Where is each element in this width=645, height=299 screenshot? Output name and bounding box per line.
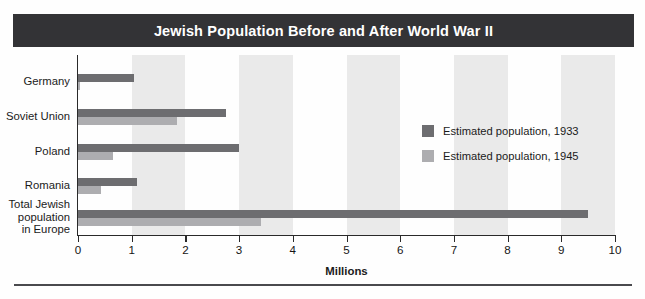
bar-1945 [78,117,177,125]
axis-tick [615,236,616,242]
axis-tick [347,236,348,242]
category-axis-labels: GermanySoviet UnionPolandRomaniaTotal Je… [0,55,74,235]
bar-1945 [78,186,101,194]
axis-tick [185,236,186,242]
category-label: Poland [35,145,70,158]
bar-1945 [78,152,113,160]
axis-tick [78,236,79,242]
axis-tick-label: 5 [343,243,349,256]
axis-tick-label: 1 [128,243,134,256]
category-label-line: Romania [25,179,70,192]
bar-1933 [78,74,134,82]
chart-title: Jewish Population Before and After World… [154,23,493,39]
category-label-line: Germany [24,75,70,88]
category-label-line: Total Jewish [8,198,70,211]
axis-tick [508,236,509,242]
legend-swatch-1945 [422,150,434,162]
axis-tick [454,236,455,242]
axis-tick [293,236,294,242]
category-label-line: in Europe [8,223,70,236]
background-band [239,55,293,235]
plot-area: GermanySoviet UnionPolandRomaniaTotal Je… [0,55,645,299]
category-label-line: Poland [35,145,70,158]
axis-tick [132,236,133,242]
chart-title-band: Jewish Population Before and After World… [13,14,634,47]
legend-label-1933: Estimated population, 1933 [443,125,579,137]
legend-item: Estimated population, 1933 [422,125,632,137]
category-label: Romania [25,179,70,192]
chart-legend: Estimated population, 1933 Estimated pop… [422,125,632,175]
legend-item: Estimated population, 1945 [422,150,632,162]
axis-tick-label: 0 [75,243,81,256]
category-label-line: Soviet Union [6,110,70,123]
axis-title: Millions [78,265,615,277]
chart-figure: Jewish Population Before and After World… [0,0,645,299]
category-label: Total Jewishpopulationin Europe [8,198,70,236]
bar-1945 [78,218,261,226]
axis-tick-label: 2 [182,243,188,256]
axis-tick-label: 6 [397,243,403,256]
category-label: Soviet Union [6,110,70,123]
axis-tick [239,236,240,242]
bar-1945 [78,82,80,90]
background-band [347,55,401,235]
axis-tick-label: 3 [236,243,242,256]
bar-1933 [78,144,239,152]
category-label-line: population [8,211,70,224]
bar-1933 [78,178,137,186]
axis-tick-label: 8 [504,243,510,256]
axis-tick [561,236,562,242]
axis-tick-label: 7 [451,243,457,256]
axis-tick-label: 4 [290,243,296,256]
legend-swatch-1933 [422,125,434,137]
legend-label-1945: Estimated population, 1945 [443,150,579,162]
axis-tick-label: 10 [609,243,622,256]
footer-rule [14,284,632,286]
axis-tick [400,236,401,242]
bar-1933 [78,210,588,218]
bar-1933 [78,109,226,117]
category-label: Germany [24,75,70,88]
axis-tick-label: 9 [558,243,564,256]
